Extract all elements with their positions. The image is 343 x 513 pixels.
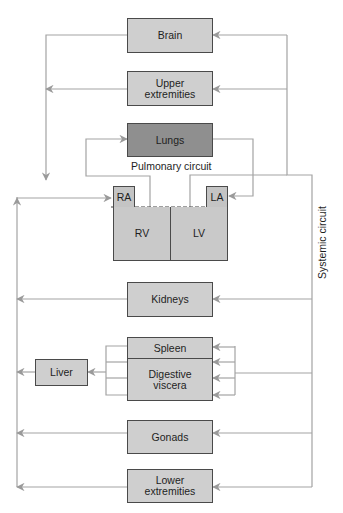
lv-label: LV — [193, 228, 205, 239]
la-label: LA — [211, 192, 224, 203]
gonads-label: Gonads — [152, 432, 189, 443]
digestive-viscera-box: Digestive viscera — [127, 358, 213, 401]
lungs-box: Lungs — [127, 123, 213, 157]
lungs-label: Lungs — [156, 135, 185, 146]
upper-extremities-label-1: Upper — [156, 78, 185, 89]
left-atrium: LA — [206, 186, 228, 208]
lower-extremities-box: Lower extremities — [127, 469, 213, 503]
gonads-box: Gonads — [127, 420, 213, 454]
left-ventricle: LV — [170, 207, 228, 261]
rv-label: RV — [135, 228, 149, 239]
right-atrium: RA — [113, 186, 135, 208]
liver-box: Liver — [35, 359, 88, 386]
upper-extremities-box: Upper extremities — [127, 71, 213, 106]
kidneys-box: Kidneys — [127, 282, 213, 317]
upper-extremities-label-2: extremities — [145, 89, 196, 100]
lower-extremities-label-2: extremities — [145, 486, 196, 497]
right-ventricle: RV — [113, 207, 171, 261]
spleen-label: Spleen — [154, 343, 187, 354]
digestive-viscera-label-1: Digestive — [148, 369, 191, 380]
kidneys-label: Kidneys — [151, 294, 188, 305]
pulmonary-circuit-label: Pulmonary circuit — [131, 160, 212, 172]
brain-label: Brain — [158, 30, 183, 41]
spleen-box: Spleen — [127, 337, 213, 359]
systemic-circuit-label: Systemic circuit — [316, 206, 328, 279]
ra-label: RA — [117, 192, 132, 203]
brain-box: Brain — [127, 18, 213, 53]
liver-label: Liver — [50, 367, 73, 378]
circulation-diagram: Brain Upper extremities Lungs Pulmonary … — [0, 0, 343, 513]
digestive-viscera-label-2: viscera — [153, 380, 186, 391]
